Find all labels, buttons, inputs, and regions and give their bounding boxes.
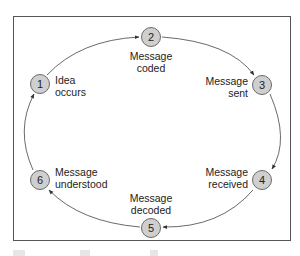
- step-label-line: received: [185, 178, 248, 190]
- step-label-line: Message: [185, 166, 248, 178]
- step-label-line: coded: [120, 62, 182, 74]
- step-number: 3: [259, 79, 265, 91]
- step-label-line: Message: [190, 75, 248, 87]
- step-label-line: occurs: [55, 86, 86, 98]
- step-label-line: Message: [120, 50, 182, 62]
- step-label-line: Message: [55, 166, 108, 178]
- edge-3-to-4: [270, 94, 281, 169]
- step-label-line: decoded: [120, 204, 182, 216]
- cropped-fragment: [150, 250, 158, 256]
- step-number: 4: [259, 174, 265, 186]
- step-label-line: Message: [120, 192, 182, 204]
- step-node-4: 4: [252, 170, 272, 190]
- step-label-line: sent: [190, 87, 248, 99]
- step-number: 1: [37, 78, 43, 90]
- step-label-1: Idea occurs: [55, 74, 86, 98]
- edge-6-to-1: [24, 94, 34, 170]
- step-node-3: 3: [252, 75, 272, 95]
- step-number: 6: [37, 174, 43, 186]
- cropped-fragment: [13, 250, 25, 256]
- step-node-2: 2: [141, 27, 161, 47]
- step-node-1: 1: [30, 74, 50, 94]
- step-label-line: Idea: [55, 74, 86, 86]
- step-label-3: Message sent: [190, 75, 248, 99]
- step-node-5: 5: [141, 218, 161, 238]
- step-label-6: Message understood: [55, 166, 108, 190]
- step-label-5: Message decoded: [120, 192, 182, 216]
- step-number: 5: [148, 222, 154, 234]
- step-node-6: 6: [30, 170, 50, 190]
- step-label-line: understood: [55, 178, 108, 190]
- cropped-fragment: [80, 250, 90, 256]
- step-label-4: Message received: [185, 166, 248, 190]
- step-number: 2: [148, 31, 154, 43]
- step-label-2: Message coded: [120, 50, 182, 74]
